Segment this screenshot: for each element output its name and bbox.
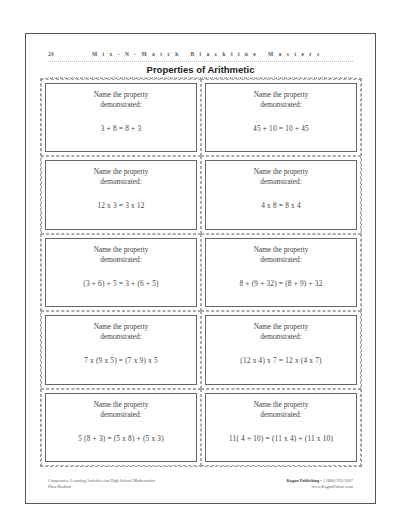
card-prompt: Name the property xyxy=(254,167,309,177)
card-expression: 12 x 3 = 3 x 12 xyxy=(97,201,144,210)
card-prompt: Name the property xyxy=(94,245,149,255)
book-title: Cooperative Learning Activities for High… xyxy=(48,478,155,484)
property-card: Name the propertydemonstrated:11( 4 + 10… xyxy=(205,393,357,462)
card-cell: Name the propertydemonstrated:11( 4 + 10… xyxy=(201,389,361,466)
card-expression: 7 x (9 x 5) = (7 x 9) x 5 xyxy=(84,356,158,365)
page-number: 24 xyxy=(48,51,54,57)
card-prompt: Name the property xyxy=(254,90,309,100)
publisher-website: www.KaganOnline.com xyxy=(286,484,353,490)
publisher-phone: • 1 (800) 933-2667 xyxy=(320,478,353,483)
footer-right: Kagan Publishing • 1 (800) 933-2667 www.… xyxy=(286,478,353,489)
card-cell: Name the propertydemonstrated:12 x 3 = 3… xyxy=(41,156,201,233)
card-cell: Name the propertydemonstrated:8 + (9 + 3… xyxy=(201,234,361,311)
card-prompt: demonstrated: xyxy=(100,332,141,342)
card-expression: 11( 4 + 10) = (11 x 4) + (11 x 10) xyxy=(229,434,333,443)
card-prompt: demonstrated: xyxy=(260,332,301,342)
card-prompt: demonstrated: xyxy=(100,177,141,187)
card-prompt: Name the property xyxy=(94,167,149,177)
card-expression: (12 x 4) x 7 = 12 x (4 x 7) xyxy=(240,356,321,365)
property-card: Name the propertydemonstrated:8 + (9 + 3… xyxy=(205,238,357,307)
card-prompt: demonstrated: xyxy=(100,410,141,420)
card-expression: 5 (8 + 3) = (5 x 8) + (5 x 3) xyxy=(78,434,164,443)
property-card: Name the propertydemonstrated:4 x 8 = 8 … xyxy=(205,160,357,229)
card-cell: Name the propertydemonstrated:(3 + 6) + … xyxy=(41,234,201,311)
worksheet-page: 24 Mix-N-Match Blackline Masters Propert… xyxy=(25,33,376,504)
card-prompt: demonstrated: xyxy=(260,100,301,110)
series-title: Mix-N-Match Blackline Masters xyxy=(92,51,353,57)
card-cell: Name the propertydemonstrated:5 (8 + 3) … xyxy=(41,389,201,466)
property-card: Name the propertydemonstrated:45 + 10 = … xyxy=(205,83,357,152)
card-prompt: Name the property xyxy=(254,322,309,332)
property-card: Name the propertydemonstrated:(12 x 4) x… xyxy=(205,315,357,384)
property-card: Name the propertydemonstrated:(3 + 6) + … xyxy=(45,238,197,307)
card-prompt: demonstrated: xyxy=(260,255,301,265)
property-card: Name the propertydemonstrated:3 + 8 = 8 … xyxy=(45,83,197,152)
card-prompt: demonstrated: xyxy=(100,100,141,110)
card-cell: Name the propertydemonstrated:(12 x 4) x… xyxy=(201,311,361,388)
card-prompt: demonstrated: xyxy=(260,177,301,187)
card-grid: Name the propertydemonstrated:3 + 8 = 8 … xyxy=(40,78,362,467)
author-name: Dina Kushnir xyxy=(48,484,155,490)
card-cell: Name the propertydemonstrated:45 + 10 = … xyxy=(201,79,361,156)
property-card: Name the propertydemonstrated:5 (8 + 3) … xyxy=(45,393,197,462)
card-expression: 45 + 10 = 10 + 45 xyxy=(253,124,309,133)
card-expression: (3 + 6) + 5 = 3 + (6 + 5) xyxy=(83,279,158,288)
card-cell: Name the propertydemonstrated:4 x 8 = 8 … xyxy=(201,156,361,233)
page-title: Properties of Arithmetic xyxy=(26,64,375,75)
property-card: Name the propertydemonstrated:12 x 3 = 3… xyxy=(45,160,197,229)
card-prompt: demonstrated: xyxy=(260,410,301,420)
card-prompt: Name the property xyxy=(94,90,149,100)
card-prompt: Name the property xyxy=(254,245,309,255)
card-prompt: Name the property xyxy=(94,400,149,410)
card-prompt: Name the property xyxy=(254,400,309,410)
card-cell: Name the propertydemonstrated:3 + 8 = 8 … xyxy=(41,79,201,156)
card-cell: Name the propertydemonstrated:7 x (9 x 5… xyxy=(41,311,201,388)
card-expression: 8 + (9 + 32) = (8 + 9) + 32 xyxy=(239,279,322,288)
footer-left: Cooperative Learning Activities for High… xyxy=(48,478,155,489)
card-prompt: demonstrated: xyxy=(100,255,141,265)
property-card: Name the propertydemonstrated:7 x (9 x 5… xyxy=(45,315,197,384)
card-expression: 3 + 8 = 8 + 3 xyxy=(101,124,142,133)
card-prompt: Name the property xyxy=(94,322,149,332)
running-header: 24 Mix-N-Match Blackline Masters xyxy=(48,51,353,62)
card-expression: 4 x 8 = 8 x 4 xyxy=(261,201,301,210)
publisher-name: Kagan Publishing xyxy=(286,478,319,483)
